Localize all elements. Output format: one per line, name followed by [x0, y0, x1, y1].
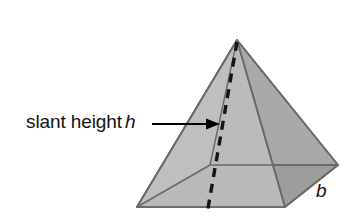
slant-height-label: slant heighth — [26, 112, 135, 131]
slant-height-label-prefix: slant height — [26, 111, 122, 132]
pyramid-figure — [0, 0, 354, 219]
base-edge-label: b — [316, 181, 327, 200]
figure-canvas: slant heighth b — [0, 0, 354, 219]
slant-height-variable: h — [122, 111, 135, 132]
